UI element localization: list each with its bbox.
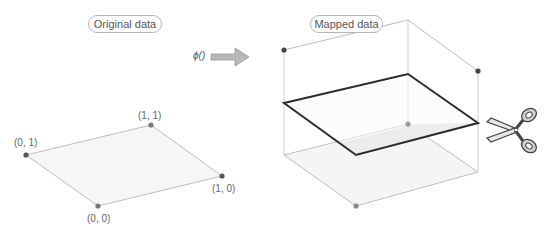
mapped-point-bottom <box>353 203 358 208</box>
scissors-icon <box>487 105 539 155</box>
mapped-data-label: Mapped data <box>310 15 383 33</box>
point-label-0-1: (0, 1) <box>14 137 37 148</box>
mapped-point-right <box>475 68 480 73</box>
mapping-function-label: ϕ() <box>193 50 205 61</box>
mapped-point-top-left <box>281 47 286 52</box>
mapped-point-back <box>405 121 410 126</box>
point-1-1 <box>148 122 153 127</box>
point-label-0-0: (0, 0) <box>87 213 110 224</box>
diagram-canvas <box>0 0 549 234</box>
point-1-0 <box>219 173 224 178</box>
cutting-plane <box>284 74 478 155</box>
point-0-0 <box>95 203 100 208</box>
point-label-1-1: (1, 1) <box>138 110 161 121</box>
point-0-1 <box>23 152 28 157</box>
right-arrow-icon <box>211 48 249 66</box>
point-label-1-0: (1, 0) <box>212 183 235 194</box>
original-data-plane <box>26 125 222 206</box>
original-data-label: Original data <box>88 15 162 33</box>
